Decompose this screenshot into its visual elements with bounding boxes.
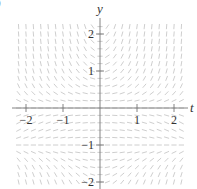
slope-segment — [166, 76, 168, 81]
slope-segment — [90, 85, 95, 86]
slope-segment — [164, 129, 169, 131]
slope-segment — [157, 91, 161, 94]
y-tick-label: 2 — [88, 27, 94, 41]
slope-segment — [113, 180, 117, 183]
slope-segment — [129, 46, 131, 51]
slope-segment — [150, 84, 153, 88]
slope-segment — [113, 69, 117, 72]
slope-segment — [16, 129, 21, 131]
slope-segment — [53, 158, 57, 161]
slope-segment — [26, 54, 27, 59]
slope-segment — [63, 24, 64, 29]
slope-segment — [114, 32, 116, 37]
slope-segment — [90, 167, 95, 168]
slope-segment — [55, 54, 56, 59]
slope-segment — [105, 62, 110, 64]
slope-segment — [40, 54, 41, 59]
slope-segment — [181, 61, 182, 66]
slope-segment — [142, 137, 147, 138]
slope-segment — [39, 91, 43, 94]
slope-segment — [105, 93, 110, 94]
slope-segment — [75, 159, 80, 161]
slope-segment — [149, 122, 154, 124]
slope-segment — [105, 160, 110, 161]
slope-segment — [121, 54, 123, 59]
slope-segment — [174, 39, 175, 44]
slope-segment — [76, 77, 80, 80]
slope-segment — [172, 158, 175, 162]
slope-segment — [46, 115, 51, 116]
slope-segment — [174, 54, 175, 59]
slope-segment — [143, 69, 145, 74]
slope-segment — [18, 76, 20, 81]
slope-segment — [128, 69, 131, 73]
slope-segment — [70, 31, 71, 36]
y-tick-label: −1 — [81, 138, 94, 152]
slope-segment — [16, 151, 21, 153]
slope-segment — [128, 173, 131, 177]
slope-segment — [112, 130, 117, 131]
slope-segment — [165, 165, 168, 170]
slope-segment — [46, 100, 51, 102]
slope-segment — [83, 62, 87, 66]
slope-segment — [113, 54, 116, 58]
slope-segment — [47, 172, 49, 177]
slope-segment — [135, 84, 139, 88]
slope-segment — [127, 115, 132, 116]
slope-segment — [150, 92, 154, 95]
slope-segment — [165, 91, 169, 95]
slope-segment — [122, 24, 123, 29]
slope-segment — [40, 76, 42, 81]
slope-segment — [38, 129, 43, 131]
slope-segment — [68, 152, 73, 153]
slope-segment — [18, 68, 19, 73]
axes — [12, 18, 188, 189]
slope-segment — [120, 77, 124, 80]
x-tick-label: −1 — [57, 113, 70, 127]
x-tick-label: −2 — [20, 113, 33, 127]
slope-segment — [69, 76, 72, 80]
slope-segment — [113, 77, 118, 80]
slope-segment — [60, 137, 65, 138]
slope-segment — [40, 180, 42, 185]
slope-segment — [18, 54, 19, 59]
slope-segment — [164, 137, 169, 138]
slope-segment — [69, 61, 71, 66]
slope-segment — [114, 39, 116, 44]
slope-segment — [62, 180, 64, 185]
slope-segment — [157, 115, 162, 116]
slope-segment — [48, 24, 49, 29]
slope-segment — [129, 31, 130, 36]
slope-segment — [70, 24, 71, 29]
slope-segment — [172, 99, 177, 101]
slope-segment — [17, 158, 20, 162]
slope-segment — [53, 137, 58, 138]
slope-segment — [181, 172, 183, 177]
slope-segment — [128, 76, 131, 80]
slope-segment — [134, 137, 139, 138]
slope-segment — [180, 91, 183, 95]
slope-segment — [173, 76, 175, 81]
slope-segment — [135, 159, 140, 162]
slope-segment — [181, 68, 182, 73]
slope-segment — [25, 83, 27, 88]
slope-segment — [158, 180, 160, 185]
slope-segment — [106, 32, 109, 36]
slope-segment — [76, 85, 81, 88]
slope-segment — [166, 68, 167, 73]
slope-segment — [128, 84, 132, 87]
slope-segment — [149, 152, 154, 154]
slope-segment — [90, 55, 94, 58]
x-tick-label: 2 — [171, 113, 177, 127]
slope-segment — [54, 165, 57, 169]
slope-segment — [142, 115, 147, 116]
slope-segment — [149, 100, 154, 102]
slope-segment — [179, 115, 184, 117]
slope-segment — [173, 172, 175, 177]
slope-segment — [173, 179, 174, 184]
slope-segment — [158, 76, 160, 81]
slope-segment — [18, 172, 20, 177]
slope-segment — [113, 62, 117, 66]
slope-segment — [159, 39, 160, 44]
slope-segment — [135, 92, 140, 95]
